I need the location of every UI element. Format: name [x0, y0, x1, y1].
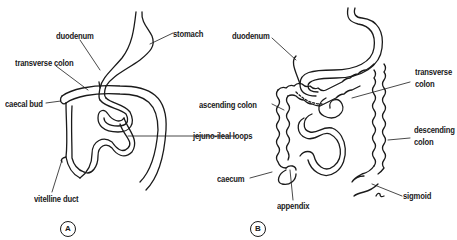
label-transverse-colon-a: transverse colon: [15, 58, 74, 68]
label-descending-colon-line1: descending: [414, 125, 455, 135]
label-caecum: caecum: [217, 174, 244, 184]
panel-marker-a: A: [60, 221, 76, 237]
panel-marker-b: B: [250, 221, 266, 237]
label-vitelline-duct: vitelline duct: [34, 194, 78, 204]
panel-a-leaders: [46, 33, 236, 192]
label-ascending-colon: ascending colon: [199, 100, 257, 110]
panel-b-leaders: [250, 38, 410, 200]
label-caecal-bud: caecal bud: [5, 99, 43, 109]
label-descending-colon-line2: colon: [414, 137, 434, 147]
label-appendix: appendix: [277, 201, 309, 211]
descending-colon: [373, 70, 376, 166]
ascending-colon: [277, 90, 287, 168]
label-transverse-colon-b-line2: colon: [415, 79, 435, 89]
label-duodenum-b: duodenum: [232, 31, 270, 41]
caecum: [279, 170, 296, 184]
appendix: [286, 166, 296, 170]
label-stomach-a: stomach: [173, 29, 203, 39]
primary-loop-outer: [62, 86, 166, 190]
label-duodenum-a: duodenum: [56, 31, 94, 41]
stomach-b: [300, 8, 374, 96]
label-jejuno-ileal-loops: jejuno-ileal loops: [193, 131, 252, 141]
label-transverse-colon-b-line1: transverse: [415, 67, 452, 77]
label-sigmoid: sigmoid: [403, 191, 431, 201]
stomach-a: [100, 12, 136, 88]
sigmoid: [352, 166, 374, 182]
panel-b-drawing: [277, 8, 386, 197]
